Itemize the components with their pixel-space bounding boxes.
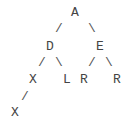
node-x1: X	[28, 73, 38, 86]
node-a: A	[70, 6, 80, 19]
node-d: D	[45, 40, 55, 53]
edge-a-e: \	[87, 22, 97, 35]
node-l: L	[62, 73, 72, 86]
edge-a-d: /	[54, 22, 64, 35]
node-e: E	[95, 40, 105, 53]
node-r1: R	[79, 73, 89, 86]
edge-d-l: \	[54, 56, 64, 69]
edge-e-r1: /	[87, 56, 97, 69]
edge-x1-x2: /	[20, 90, 30, 103]
edge-e-r2: \	[104, 56, 114, 69]
node-x2: X	[10, 106, 20, 119]
edge-d-x: /	[37, 56, 47, 69]
node-r2: R	[112, 73, 122, 86]
